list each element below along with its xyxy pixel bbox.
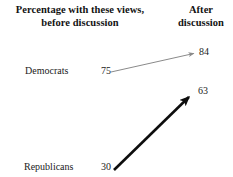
series-label-republicans: Republicans bbox=[24, 161, 73, 173]
before-value-republicans: 30 bbox=[95, 161, 111, 173]
chart-title-before-line2: before discussion bbox=[10, 17, 150, 30]
chart-title-before-line1: Percentage with these views, bbox=[10, 4, 150, 17]
chart-title-after-line2: discussion bbox=[172, 17, 230, 30]
after-value-republicans: 63 bbox=[198, 85, 208, 97]
chart-title-after: After discussion bbox=[172, 4, 230, 29]
arrow-republicans bbox=[114, 97, 189, 170]
series-label-democrats: Democrats bbox=[25, 65, 68, 77]
chart-title-after-line1: After bbox=[172, 4, 230, 17]
after-value-democrats: 84 bbox=[199, 46, 209, 58]
arrow-democrats bbox=[111, 53, 194, 72]
before-value-democrats: 75 bbox=[95, 65, 111, 77]
chart-title-before: Percentage with these views, before disc… bbox=[10, 4, 150, 29]
chart-figure: Percentage with these views, before disc… bbox=[0, 0, 233, 177]
